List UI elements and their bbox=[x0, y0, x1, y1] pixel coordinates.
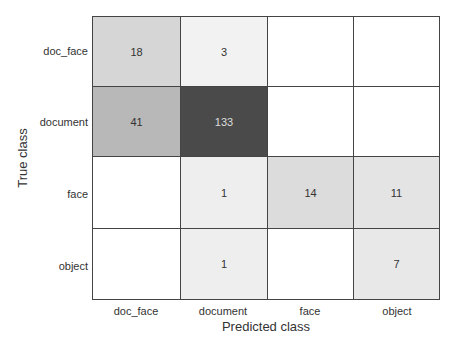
y-tick-face: face bbox=[67, 188, 88, 200]
x-tick-document: document bbox=[199, 305, 247, 317]
y-tick-doc-face: doc_face bbox=[43, 45, 88, 57]
matrix-cell bbox=[268, 229, 354, 299]
confusion-matrix-grid: 183411331141117 bbox=[92, 16, 440, 300]
matrix-cell: 133 bbox=[181, 87, 268, 157]
y-tick-document: document bbox=[40, 116, 88, 128]
matrix-cell: 1 bbox=[181, 229, 268, 299]
matrix-cell bbox=[268, 87, 354, 157]
matrix-cell: 14 bbox=[268, 157, 354, 229]
matrix-cell bbox=[93, 157, 181, 229]
x-tick-doc-face: doc_face bbox=[114, 305, 159, 317]
matrix-cell bbox=[93, 229, 181, 299]
y-tick-object: object bbox=[59, 260, 88, 272]
matrix-cell: 7 bbox=[354, 229, 439, 299]
matrix-cell: 11 bbox=[354, 157, 439, 229]
matrix-cell bbox=[268, 17, 354, 87]
x-tick-object: object bbox=[382, 305, 411, 317]
matrix-cell bbox=[354, 87, 439, 157]
x-tick-face: face bbox=[300, 305, 321, 317]
matrix-cell: 1 bbox=[181, 157, 268, 229]
matrix-cell: 18 bbox=[93, 17, 181, 87]
matrix-cell: 3 bbox=[181, 17, 268, 87]
y-axis-title: True class bbox=[15, 128, 30, 187]
matrix-cell: 41 bbox=[93, 87, 181, 157]
matrix-cell bbox=[354, 17, 439, 87]
x-axis-title: Predicted class bbox=[222, 319, 310, 334]
